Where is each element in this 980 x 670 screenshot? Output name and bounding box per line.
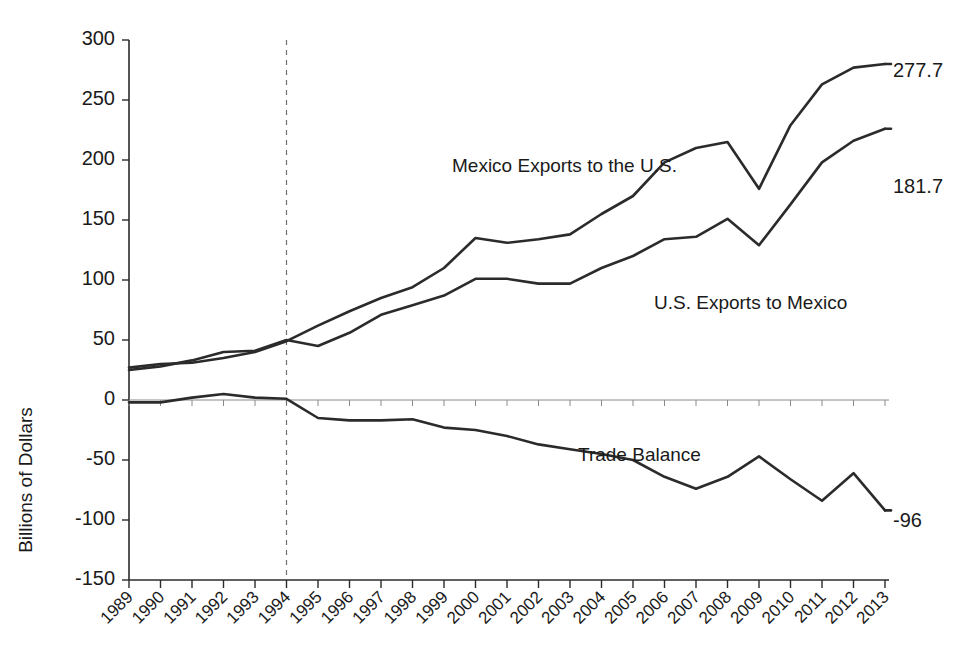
y-tick-label: -100 — [75, 507, 115, 529]
x-tick-label: 2008 — [695, 587, 735, 627]
x-tick-label: 1998 — [380, 587, 420, 627]
y-tick-label: 200 — [82, 147, 115, 169]
x-tick-label: 1994 — [254, 587, 294, 627]
x-tick-label: 1997 — [349, 587, 389, 627]
x-tick-label: 1995 — [286, 587, 326, 627]
x-tick-label: 1993 — [223, 587, 263, 627]
series-label-trade-balance: Trade Balance — [578, 444, 701, 465]
y-tick-label: 100 — [82, 267, 115, 289]
series-line — [129, 64, 885, 368]
x-tick-label: 2002 — [506, 587, 546, 627]
x-tick-label: 2005 — [601, 587, 641, 627]
x-axis: 1989199019911992199319941995199619971998… — [97, 580, 893, 628]
x-tick-label: 2004 — [569, 587, 609, 627]
zero-baseline — [129, 400, 889, 406]
x-tick-label: 2013 — [853, 587, 893, 627]
x-tick-label: 2010 — [758, 587, 798, 627]
x-tick-label: 2006 — [632, 587, 672, 627]
x-tick-label: 1989 — [97, 587, 137, 627]
x-tick-label: 2011 — [791, 587, 830, 626]
x-tick-label: 2001 — [475, 587, 515, 627]
x-tick-label: 1990 — [128, 587, 168, 627]
y-axis-tick-labels: 300250200150100500-50-100-150 — [75, 27, 115, 589]
y-tick-label: 300 — [82, 27, 115, 49]
x-tick-label: 1996 — [317, 587, 357, 627]
x-tick-label: 2007 — [664, 587, 704, 627]
y-tick-label: 50 — [93, 327, 115, 349]
y-tick-label: 150 — [82, 207, 115, 229]
series-line — [129, 394, 885, 510]
x-tick-label: 1999 — [412, 587, 452, 627]
y-axis: 300250200150100500-50-100-150 — [75, 27, 129, 589]
y-axis-ticks — [122, 40, 129, 580]
x-tick-label: 2012 — [821, 587, 861, 627]
x-tick-label: 2009 — [727, 587, 767, 627]
y-tick-label: 250 — [82, 87, 115, 109]
x-tick-label: 1992 — [191, 587, 231, 627]
y-tick-label: -50 — [86, 447, 115, 469]
y-axis-title: Billions of Dollars — [15, 407, 36, 553]
x-axis-ticks — [129, 580, 885, 588]
line-chart: 300250200150100500-50-100-150 1989199019… — [0, 0, 980, 670]
zero-line-ticks — [129, 400, 885, 406]
series-label-us-exports: U.S. Exports to Mexico — [654, 292, 847, 313]
x-tick-label: 1991 — [160, 587, 200, 627]
end-value-us-exports: 181.7 — [893, 175, 943, 197]
series-label-mexico-exports: Mexico Exports to the U.S. — [452, 155, 677, 176]
chart-container: 300250200150100500-50-100-150 1989199019… — [0, 0, 980, 670]
y-tick-label: -150 — [75, 567, 115, 589]
end-value-mexico-exports: 277.7 — [893, 59, 943, 81]
series-lines — [129, 64, 891, 510]
x-axis-tick-labels: 1989199019911992199319941995199619971998… — [97, 587, 893, 627]
y-tick-label: 0 — [104, 387, 115, 409]
x-tick-label: 2000 — [443, 587, 483, 627]
x-tick-label: 2003 — [538, 587, 578, 627]
end-value-trade-balance: -96 — [893, 509, 922, 531]
